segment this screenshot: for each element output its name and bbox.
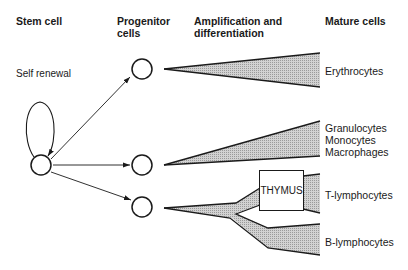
header-progenitor-line2: cells xyxy=(117,27,140,39)
thymus-box: THYMUS xyxy=(259,170,304,211)
label-b-lymphocytes: B-lymphocytes xyxy=(325,236,394,248)
arrow-to-progenitor-1 xyxy=(51,77,130,159)
label-t-lymphocytes: T-lymphocytes xyxy=(325,189,393,201)
header-amplification-line2: differentiation xyxy=(194,27,264,39)
stem-cell-circle xyxy=(31,155,51,175)
erythrocyte-amplification-wedge xyxy=(164,53,320,87)
header-mature-cells: Mature cells xyxy=(325,15,386,27)
label-granulocytes: Granulocytes xyxy=(325,122,387,134)
hematopoiesis-diagram: Stem cell Progenitor cells Amplification… xyxy=(0,0,408,270)
header-stem-cell: Stem cell xyxy=(16,15,62,27)
progenitor-cell-1 xyxy=(132,59,152,79)
header-amplification-line1: Amplification and xyxy=(194,15,282,27)
self-renewal-loop-arrow xyxy=(26,102,54,157)
header-progenitor-line1: Progenitor xyxy=(117,15,170,27)
progenitor-cell-2 xyxy=(132,155,152,175)
label-monocytes: Monocytes xyxy=(325,134,376,146)
progenitor-cell-3 xyxy=(132,197,152,217)
self-renewal-label: Self renewal xyxy=(16,68,71,80)
label-erythrocytes: Erythrocytes xyxy=(325,65,383,77)
thymus-label: THYMUS xyxy=(260,185,302,196)
arrow-to-progenitor-3 xyxy=(51,172,131,200)
label-macrophages: Macrophages xyxy=(325,146,389,158)
